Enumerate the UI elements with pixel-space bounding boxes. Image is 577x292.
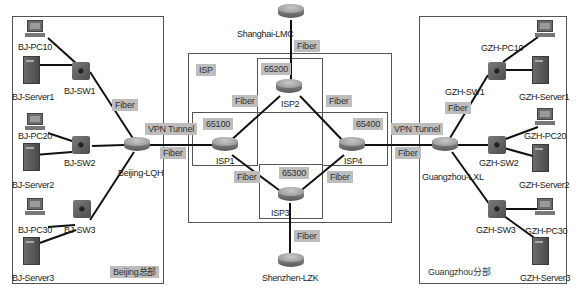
pc-icon-bj-pc10[interactable] — [25, 20, 45, 40]
device-label-gzh-pc30: GZH-PC30 — [525, 226, 567, 236]
device-label-gzh-server1: GZH-Server1 — [519, 92, 569, 102]
router-icon-beijing[interactable] — [124, 137, 150, 153]
router-icon-isp1[interactable] — [212, 137, 238, 153]
vpn-tunnel-label-left: VPN Tunnel — [145, 123, 197, 135]
pc-icon-gzh-pc10[interactable] — [535, 20, 555, 40]
router-icon-shanghai[interactable] — [278, 4, 304, 20]
switch-icon-gzh-sw2[interactable] — [488, 136, 506, 154]
device-label-gzh-pc20: GZH-PC20 — [524, 131, 566, 141]
device-label-gzh-server3: GZH-Server3 — [520, 273, 570, 283]
device-label-gzh-server2: GZH-Server2 — [519, 180, 569, 190]
pc-icon-bj-pc30[interactable] — [25, 198, 45, 218]
router-icon-isp4[interactable] — [339, 137, 365, 153]
router-label-shanghai: Shanghai-LMC — [237, 29, 293, 39]
server-icon-bj-server3[interactable] — [23, 237, 40, 265]
router-icon-isp2[interactable] — [276, 79, 302, 95]
fiber-label-shanghai: Fiber — [294, 40, 320, 52]
device-label-gzh-sw3: GZH-SW3 — [476, 225, 515, 235]
as65200-label: 65200 — [261, 63, 291, 75]
server-icon-gzh-server3[interactable] — [532, 237, 549, 265]
device-label-gzh-pc10: GZH-PC10 — [481, 43, 523, 53]
fiber-label-bj-isp1: Fiber — [160, 147, 186, 159]
router-icon-shenzhen[interactable] — [278, 253, 304, 269]
device-label-bj-pc20: BJ-PC20 — [18, 131, 52, 141]
switch-icon-gzh-sw1[interactable] — [488, 62, 506, 80]
switch-icon-bj-sw3[interactable] — [73, 200, 91, 218]
pc-icon-bj-pc20[interactable] — [25, 113, 45, 133]
guangzhou-region-label: Guangzhou分部 — [425, 266, 493, 278]
router-label-isp3: ISP3 — [271, 208, 289, 218]
router-icon-isp3[interactable] — [278, 187, 304, 203]
server-icon-bj-server1[interactable] — [23, 56, 40, 84]
fiber-label-isp2-isp4: Fiber — [326, 95, 352, 107]
vpn-tunnel-label-right: VPN Tunnel — [391, 123, 443, 135]
switch-icon-bj-sw2[interactable] — [72, 136, 90, 154]
fiber-label-gzh-sw1: Fiber — [445, 102, 471, 114]
router-label-shenzhen: Shenzhen-LZK — [262, 273, 318, 283]
isp-region-label: ISP — [196, 64, 216, 76]
fiber-label-shenzhen: Fiber — [294, 230, 320, 242]
pc-icon-gzh-pc30[interactable] — [535, 198, 555, 218]
router-icon-guangzhou[interactable] — [432, 137, 458, 153]
fiber-label-isp1-isp2: Fiber — [232, 95, 258, 107]
as65400-label: 65400 — [353, 118, 383, 130]
device-label-gzh-sw1: GZH-SW1 — [445, 87, 484, 97]
router-label-guangzhou: Guangzhou-LXL — [422, 172, 484, 182]
switch-icon-bj-sw1[interactable] — [72, 62, 90, 80]
as65100-label: 65100 — [203, 118, 233, 130]
beijing-region-label: Beijing总部 — [110, 266, 159, 278]
device-label-bj-sw1: BJ-SW1 — [64, 86, 95, 96]
device-label-bj-pc10: BJ-PC10 — [18, 42, 52, 52]
server-icon-gzh-server1[interactable] — [532, 56, 549, 84]
fiber-label-bj-sw1: Fiber — [112, 99, 138, 111]
fiber-label-isp4-gzh: Fiber — [395, 147, 421, 159]
device-label-gzh-sw2: GZH-SW2 — [479, 158, 518, 168]
device-label-bj-server2: BJ-Server2 — [12, 180, 54, 190]
device-label-bj-server3: BJ-Server3 — [12, 273, 54, 283]
as65300-label: 65300 — [279, 167, 309, 179]
server-icon-gzh-server2[interactable] — [532, 144, 549, 172]
router-label-beijing: Beijing-LQH — [118, 168, 163, 178]
server-icon-bj-server2[interactable] — [23, 143, 40, 171]
device-label-bj-sw3: BJ-SW3 — [64, 225, 95, 235]
switch-icon-gzh-sw3[interactable] — [488, 200, 506, 218]
device-label-bj-pc30: BJ-PC30 — [18, 225, 52, 235]
router-label-isp2: ISP2 — [281, 99, 299, 109]
fiber-label-isp1-isp3: Fiber — [234, 171, 260, 183]
network-diagram: Beijing总部 Guangzhou分部 ISP 65200 65100 65… — [0, 0, 577, 292]
device-label-bj-sw2: BJ-SW2 — [64, 158, 95, 168]
pc-icon-gzh-pc20[interactable] — [535, 108, 555, 128]
router-label-isp4: ISP4 — [344, 156, 362, 166]
fiber-label-isp4-isp3: Fiber — [327, 171, 353, 183]
router-label-isp1: ISP1 — [216, 156, 234, 166]
device-label-bj-server1: BJ-Server1 — [12, 92, 54, 102]
